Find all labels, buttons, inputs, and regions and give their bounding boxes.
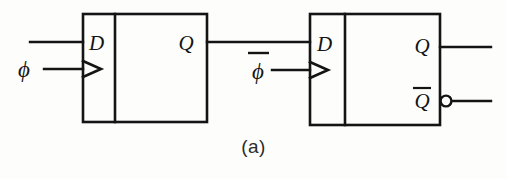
flipflop-2-d-label: D (316, 32, 332, 56)
figure-container: D Q D Q Q ϕ ϕ (a) (0, 0, 507, 179)
clock-1-label: ϕ (18, 57, 30, 82)
flipflop-2-q-label: Q (414, 34, 429, 58)
figure-caption: (a) (0, 136, 507, 158)
clock-2-label: ϕ (252, 59, 264, 84)
flipflop-2-qbar-label: Q (414, 89, 429, 113)
flipflop-1-d-label: D (88, 31, 104, 55)
flipflop-2-clock-triangle (310, 62, 328, 78)
flipflop-1-clock-triangle (83, 61, 101, 77)
inversion-bubble-icon (441, 96, 452, 107)
flipflop-1-q-label: Q (178, 31, 193, 55)
